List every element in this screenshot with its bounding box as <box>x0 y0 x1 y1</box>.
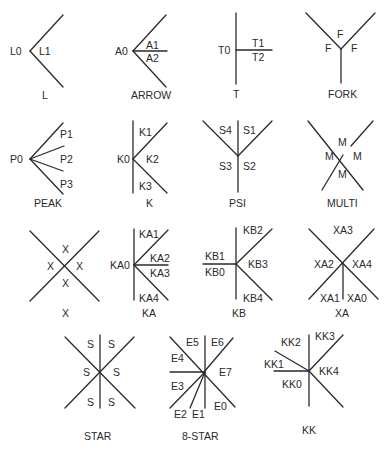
label-k0: K0 <box>117 153 130 165</box>
label-s-top-right: S <box>108 338 115 350</box>
label-e7: E7 <box>219 366 232 378</box>
junction-star: S S S S S S STAR <box>65 335 135 442</box>
label-kb3: KB3 <box>248 258 268 270</box>
label-kk3: KK3 <box>315 330 335 342</box>
label-s4: S4 <box>219 124 232 136</box>
label-a2: A2 <box>146 52 159 64</box>
caption-star: STAR <box>84 430 112 442</box>
label-ka0: KA0 <box>110 259 130 271</box>
caption-t: T <box>233 88 240 100</box>
caption-8-star: 8-STAR <box>182 430 219 442</box>
label-p0: P0 <box>10 153 23 165</box>
label-a1: A1 <box>146 39 159 51</box>
label-s-top-left: S <box>87 338 94 350</box>
label-kb4: KB4 <box>243 292 263 304</box>
label-ka4: KA4 <box>139 292 159 304</box>
label-p2: P2 <box>60 153 73 165</box>
label-xa1: XA1 <box>320 292 340 304</box>
junction-multi: M M M M MULTI <box>308 121 373 209</box>
label-l1: L1 <box>39 45 51 57</box>
label-kk0: KK0 <box>282 378 302 390</box>
label-k2: K2 <box>146 153 159 165</box>
junction-ka: KA0 KA1 KA2 KA3 KA4 KA <box>110 228 170 319</box>
caption-x: X <box>62 307 69 319</box>
junction-8-star: E5 E6 E4 E7 E3 E2 E1 E0 8-STAR <box>170 336 235 442</box>
label-fork-left: F <box>325 42 331 54</box>
label-kk4: KK4 <box>319 365 339 377</box>
label-ka2: KA2 <box>150 252 170 264</box>
label-t2: T2 <box>252 51 264 63</box>
label-kk1: KK1 <box>264 358 284 370</box>
label-x-top: X <box>62 243 69 255</box>
label-x-left: X <box>47 260 54 272</box>
label-s3: S3 <box>219 160 232 172</box>
caption-arrow: ARROW <box>131 89 171 101</box>
label-xa0: XA0 <box>347 292 367 304</box>
label-fork-top: F <box>337 28 343 40</box>
label-s2: S2 <box>243 160 256 172</box>
label-e6: E6 <box>211 336 224 348</box>
caption-fork: FORK <box>328 88 357 100</box>
label-l0: L0 <box>10 45 22 57</box>
junction-kb: KB1 KB0 KB2 KB3 KB4 KB <box>203 224 272 319</box>
label-xa4: XA4 <box>352 258 372 270</box>
junction-diagram: L0 L1 L A0 A1 A2 ARROW T0 T1 T2 T F F F … <box>0 0 392 451</box>
junction-kk: KK2 KK3 KK1 KK4 KK0 KK <box>264 330 343 436</box>
label-e2: E2 <box>174 408 187 420</box>
label-p3: P3 <box>60 178 73 190</box>
label-s1: S1 <box>243 124 256 136</box>
label-e4: E4 <box>171 352 184 364</box>
label-kk2: KK2 <box>281 336 301 348</box>
caption-xa: XA <box>335 307 349 319</box>
label-m-left: M <box>325 150 334 162</box>
label-t0: T0 <box>218 44 230 56</box>
label-s-bottom-right: S <box>108 396 115 408</box>
label-m-top: M <box>338 136 347 148</box>
label-fork-right: F <box>351 42 357 54</box>
caption-kb: KB <box>232 307 246 319</box>
label-x-bottom: X <box>62 277 69 289</box>
label-e5: E5 <box>186 336 199 348</box>
caption-k: K <box>146 197 153 209</box>
label-ka3: KA3 <box>150 267 170 279</box>
label-kb2: KB2 <box>243 224 263 236</box>
junction-peak: P0 P1 P2 P3 PEAK <box>10 123 73 209</box>
caption-l: L <box>42 89 48 101</box>
label-e3: E3 <box>171 380 184 392</box>
junction-arrow: A0 A1 A2 ARROW <box>115 15 171 101</box>
label-xa2: XA2 <box>314 258 334 270</box>
junction-x: X X X X X <box>30 231 99 319</box>
label-e0: E0 <box>214 400 227 412</box>
label-xa3: XA3 <box>333 224 353 236</box>
label-e1: E1 <box>192 408 205 420</box>
label-m-bottom: M <box>338 168 347 180</box>
label-a0: A0 <box>115 45 128 57</box>
caption-ka: KA <box>142 307 156 319</box>
label-s-bottom-left: S <box>87 396 94 408</box>
label-s-right: S <box>113 366 120 378</box>
label-ka1: KA1 <box>139 228 159 240</box>
caption-peak: PEAK <box>34 197 62 209</box>
label-p1: P1 <box>60 128 73 140</box>
label-kb1: KB1 <box>205 250 225 262</box>
junction-t: T0 T1 T2 T <box>218 13 272 100</box>
caption-kk: KK <box>302 424 316 436</box>
label-s-left: S <box>83 366 90 378</box>
junction-l: L0 L1 L <box>10 15 63 101</box>
junction-fork: F F F FORK <box>306 13 375 100</box>
junction-psi: S4 S1 S3 S2 PSI <box>203 121 272 209</box>
caption-psi: PSI <box>229 197 246 209</box>
caption-multi: MULTI <box>327 197 358 209</box>
label-k3: K3 <box>139 180 152 192</box>
label-k1: K1 <box>139 126 152 138</box>
junction-k: K0 K1 K2 K3 K <box>117 121 167 209</box>
label-t1: T1 <box>252 37 264 49</box>
label-m-right: M <box>353 150 362 162</box>
junction-xa: XA3 XA2 XA4 XA1 XA0 XA <box>309 224 378 319</box>
label-kb0: KB0 <box>205 266 225 278</box>
label-x-right: X <box>76 260 83 272</box>
